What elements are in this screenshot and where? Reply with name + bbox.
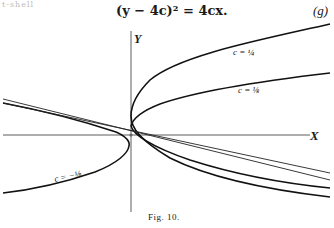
- label-c-eighth: c = ⅛: [238, 85, 260, 95]
- envelope-line-1: [3, 99, 330, 180]
- y-axis-label: Y: [134, 32, 143, 46]
- origin-point: [129, 133, 132, 136]
- curve-c-eighth: [131, 73, 330, 188]
- label-c-neg-eighth: c = −⅛: [53, 168, 82, 184]
- envelope-line-2: [3, 103, 330, 173]
- x-axis-label: X: [309, 128, 319, 143]
- figure-caption: Fig. 10.: [148, 212, 180, 222]
- label-c-quarter: c = ¼: [233, 47, 255, 57]
- parabola-figure: Y X c = ¼ c = ⅛ c = −⅛: [0, 0, 334, 228]
